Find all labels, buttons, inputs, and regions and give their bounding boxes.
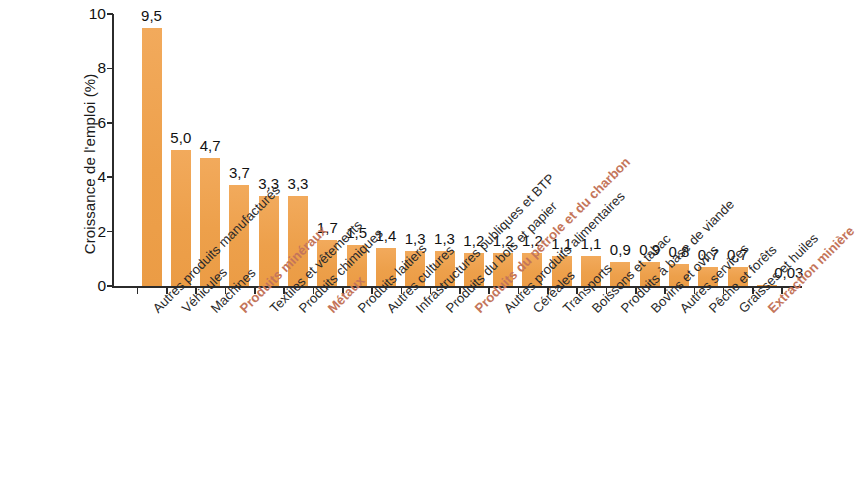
y-axis-tick-label: 0	[76, 277, 106, 295]
bar	[142, 28, 162, 286]
y-axis-tick-label: 6	[76, 114, 106, 132]
y-axis-tick-label: 2	[76, 223, 106, 241]
y-axis-tick-mark	[107, 122, 113, 124]
x-axis-tick-mark	[137, 287, 139, 294]
y-axis-tick-mark	[107, 68, 113, 70]
y-axis-tick-label: 8	[76, 59, 106, 77]
y-axis-tick-labels: 0246810	[76, 0, 106, 488]
bar-value-label: 5,0	[170, 129, 191, 146]
bar-value-label: 0,9	[610, 241, 631, 258]
bar-value-label: 9,5	[141, 7, 162, 24]
bar-value-label: 3,7	[229, 164, 250, 181]
y-axis-tick-label: 10	[76, 5, 106, 23]
bar-value-label: 3,3	[288, 175, 309, 192]
y-axis-tick-label: 4	[76, 168, 106, 186]
y-axis-tick-mark	[107, 13, 113, 15]
bar-value-label: 4,7	[200, 137, 221, 154]
y-axis-tick-mark	[107, 285, 113, 287]
y-axis-tick-mark	[107, 176, 113, 178]
y-axis-line	[112, 14, 114, 287]
y-axis-tick-mark	[107, 231, 113, 233]
